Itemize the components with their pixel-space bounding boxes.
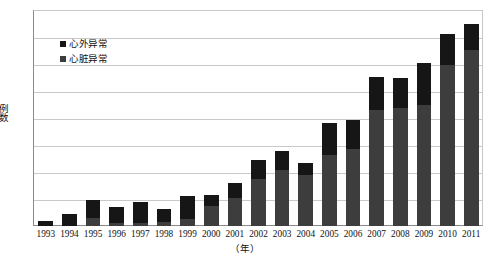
legend-swatch-icon xyxy=(60,41,66,47)
bar-segment-cardiac xyxy=(322,155,337,226)
bar-segment-cardiac xyxy=(440,65,455,226)
bar-column xyxy=(393,78,408,226)
bar-column xyxy=(133,202,148,226)
bar-segment-outer xyxy=(157,209,172,222)
bar-segment-outer xyxy=(251,160,266,179)
bar-column xyxy=(180,196,195,226)
bar-column xyxy=(417,63,432,226)
x-tick-label: 2001 xyxy=(223,229,247,240)
bar-segment-cardiac xyxy=(393,108,408,226)
bar-segment-cardiac xyxy=(346,149,361,226)
bar-segment-cardiac xyxy=(157,222,172,226)
x-tick-label: 1998 xyxy=(152,229,176,240)
bar-column xyxy=(109,207,124,226)
x-tick-label: 2004 xyxy=(294,229,318,240)
bar-column xyxy=(86,200,101,226)
bar-segment-cardiac xyxy=(417,105,432,226)
bar-column xyxy=(369,77,384,226)
bar-segment-outer xyxy=(133,202,148,224)
x-tick-label: 2006 xyxy=(341,229,365,240)
bar-segment-outer xyxy=(228,183,243,198)
bar-segment-outer xyxy=(86,200,101,217)
bar-column xyxy=(298,163,313,226)
x-tick-label: 2009 xyxy=(412,229,436,240)
bar-column xyxy=(157,209,172,226)
bar-segment-outer xyxy=(62,214,77,226)
x-tick-label: 2003 xyxy=(270,229,294,240)
bar-column xyxy=(346,120,361,226)
bar-segment-outer xyxy=(38,221,53,226)
bar-column xyxy=(440,34,455,226)
bar-segment-outer xyxy=(369,77,384,111)
legend-item-label: 心脏异常 xyxy=(69,51,108,66)
y-axis-title: 例数 xyxy=(0,104,8,122)
bar-column xyxy=(38,221,53,226)
x-tick-label: 1994 xyxy=(58,229,82,240)
x-tick-label: 1996 xyxy=(105,229,129,240)
bar-segment-outer xyxy=(346,120,361,150)
bar-segment-cardiac xyxy=(133,223,148,226)
bar-segment-outer xyxy=(417,63,432,105)
legend-item-1: 心脏异常 xyxy=(60,51,108,66)
bar-segment-cardiac xyxy=(369,110,384,226)
chart-legend: 心外异常 心脏异常 xyxy=(60,36,108,66)
bar-segment-cardiac xyxy=(464,50,479,226)
bar-segment-outer xyxy=(109,207,124,223)
bar-segment-outer xyxy=(464,24,479,50)
bar-column xyxy=(251,160,266,226)
bar-segment-outer xyxy=(440,34,455,65)
x-tick-label: 1993 xyxy=(34,229,58,240)
x-tick-label: 2002 xyxy=(247,229,271,240)
x-tick-label: 2007 xyxy=(365,229,389,240)
bar-segment-cardiac xyxy=(204,206,219,226)
bar-segment-cardiac xyxy=(251,179,266,226)
x-axis-title: （年） xyxy=(0,241,490,255)
x-tick-label: 1997 xyxy=(129,229,153,240)
bar-column xyxy=(228,183,243,226)
bar-segment-outer xyxy=(180,196,195,219)
x-tick-label: 1999 xyxy=(176,229,200,240)
bar-segment-cardiac xyxy=(228,198,243,226)
bar-segment-outer xyxy=(393,78,408,108)
x-tick-label: 2010 xyxy=(436,229,460,240)
bar-segment-outer xyxy=(322,123,337,155)
x-tick-label: 2005 xyxy=(318,229,342,240)
stacked-bar-chart: 例数 160 140 120 100 80 60 40 20 0 1993199… xyxy=(0,0,490,260)
bar-segment-cardiac xyxy=(298,175,313,226)
bar-segment-cardiac xyxy=(180,219,195,226)
bar-segment-outer xyxy=(204,195,219,206)
x-tick-label: 2008 xyxy=(388,229,412,240)
bar-column xyxy=(204,195,219,226)
bar-segment-outer xyxy=(275,151,290,170)
bar-column xyxy=(322,123,337,226)
bar-column xyxy=(62,214,77,226)
x-tick-label: 2000 xyxy=(199,229,223,240)
legend-item-label: 心外异常 xyxy=(69,36,108,51)
bar-segment-cardiac xyxy=(275,170,290,226)
bar-segment-cardiac xyxy=(109,223,124,226)
bar-column xyxy=(464,24,479,226)
x-tick-label: 2011 xyxy=(459,229,483,240)
bar-segment-cardiac xyxy=(86,218,101,226)
legend-swatch-icon xyxy=(60,56,66,62)
legend-item-0: 心外异常 xyxy=(60,36,108,51)
x-tick-label: 1995 xyxy=(81,229,105,240)
bar-segment-outer xyxy=(298,163,313,175)
bar-column xyxy=(275,151,290,226)
